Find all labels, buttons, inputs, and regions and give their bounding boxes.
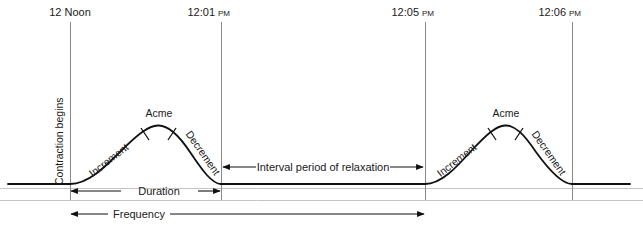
duration-label: Duration — [138, 185, 180, 197]
increment-label-wave-2: Increment — [434, 141, 478, 179]
acme-label-wave-2: Acme — [493, 107, 520, 119]
acme-label-wave-1: Acme — [146, 107, 173, 119]
time-label-1206-meridiem: PM — [569, 9, 581, 18]
guide-rules — [0, 189, 643, 201]
time-label-1206: 12:06 — [538, 6, 566, 18]
frequency-label: Frequency — [113, 208, 165, 220]
time-labels: 12 Noon 12:01 PM 12:05 PM 12:06 PM — [49, 6, 581, 18]
time-label-1201: 12:01 — [187, 6, 215, 18]
increment-label-wave-1: Increment — [86, 141, 130, 179]
contraction-waveform-diagram: 12 Noon 12:01 PM 12:05 PM 12:06 PM — [0, 0, 643, 228]
time-label-noon: 12 Noon — [49, 6, 91, 18]
diagram-canvas: 12 Noon 12:01 PM 12:05 PM 12:06 PM — [0, 0, 643, 228]
time-label-1201-meridiem: PM — [218, 9, 230, 18]
time-label-1205: 12:05 — [391, 6, 419, 18]
contraction-begins-label: Contraction begins — [53, 97, 65, 185]
interval-label: Interval period of relaxation — [257, 161, 390, 173]
time-label-1205-meridiem: PM — [422, 9, 434, 18]
